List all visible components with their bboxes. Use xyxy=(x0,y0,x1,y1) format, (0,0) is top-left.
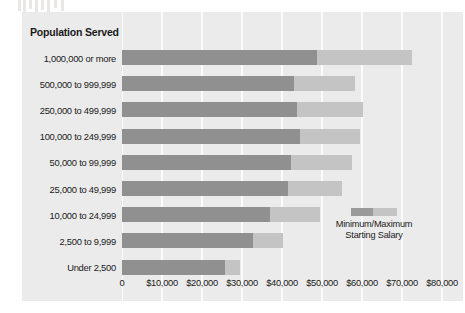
x-tick-label: $50,000 xyxy=(306,278,338,288)
category-label: 250,000 to 499,999 xyxy=(12,105,116,116)
bar-segment-max xyxy=(288,181,342,196)
category-label: 100,000 to 249,999 xyxy=(12,131,116,142)
legend-label-line2: Starting Salary xyxy=(314,230,434,241)
legend-swatch-min xyxy=(351,208,373,216)
category-label: 2,500 to 9,999 xyxy=(12,236,116,247)
category-label: 10,000 to 24,999 xyxy=(12,210,116,221)
x-tick-label: 0 xyxy=(120,278,125,288)
chart-root: Population Served 1,000,000 or more500,0… xyxy=(0,0,465,313)
bar-segment-max xyxy=(225,260,240,275)
x-tick-label: $80,000 xyxy=(426,278,458,288)
bar-segment-max xyxy=(317,50,412,65)
bar-segment-max xyxy=(253,233,283,248)
bar-segment-min xyxy=(122,260,225,275)
x-tick-label: $40,000 xyxy=(266,278,298,288)
bar-segment-max xyxy=(297,102,363,117)
bar-segment-max xyxy=(294,76,355,91)
x-tick-label: $70,000 xyxy=(386,278,418,288)
bar-segment-max xyxy=(300,129,360,144)
category-label: Under 2,500 xyxy=(12,262,116,273)
bar-segment-min xyxy=(122,207,270,222)
plot-panel: Population Served 1,000,000 or more500,0… xyxy=(22,12,463,301)
x-tick-label: $10,000 xyxy=(146,278,178,288)
bar-segment-min xyxy=(122,76,294,91)
bar-segment-min xyxy=(122,50,317,65)
category-label: 25,000 to 49,999 xyxy=(12,184,116,195)
bar-segment-min xyxy=(122,102,297,117)
bar-segment-min xyxy=(122,233,253,248)
category-label: 50,000 to 99,999 xyxy=(12,157,116,168)
legend-swatch xyxy=(351,208,397,216)
category-label-column: Population Served 1,000,000 or more500,0… xyxy=(22,12,122,301)
bar-segment-min xyxy=(122,155,291,170)
x-tick-label: $20,000 xyxy=(186,278,218,288)
bar-segment-max xyxy=(270,207,320,222)
legend-swatch-max xyxy=(373,208,397,216)
category-label: 500,000 to 999,999 xyxy=(12,79,116,90)
bar-segment-min xyxy=(122,129,300,144)
x-tick-label: $30,000 xyxy=(226,278,258,288)
chart-legend: Minimum/Maximum Starting Salary xyxy=(314,208,434,241)
bar-segment-max xyxy=(291,155,352,170)
axis-title-population-served: Population Served xyxy=(30,26,119,38)
legend-label-line1: Minimum/Maximum xyxy=(314,219,434,230)
category-label: 1,000,000 or more xyxy=(12,53,116,64)
x-tick-label: $60,000 xyxy=(346,278,378,288)
bar-segment-min xyxy=(122,181,288,196)
